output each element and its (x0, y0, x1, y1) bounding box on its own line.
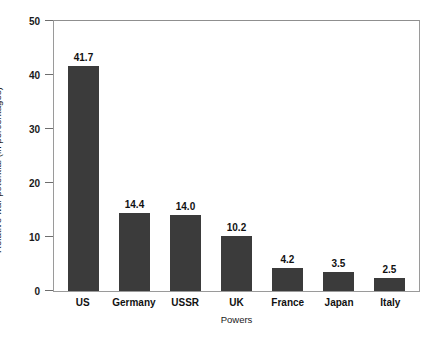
y-axis-tick-label: 20 (29, 177, 40, 188)
bar-value-label: 14.0 (176, 201, 195, 212)
x-axis-tick-label: US (57, 293, 108, 311)
bar-value-label: 3.5 (332, 258, 346, 269)
bar-slot: 10.2 (211, 21, 262, 291)
bar-value-label: 2.5 (383, 264, 397, 275)
x-axis-tick-label: Germany (108, 293, 159, 311)
x-axis-ticks: USGermanyUSSRUKFranceJapanItaly (53, 293, 420, 311)
bar[interactable]: 41.7 (68, 66, 100, 291)
y-axis-tick-label: 10 (29, 231, 40, 242)
y-axis-tick: 40 (45, 74, 53, 75)
bar[interactable]: 2.5 (374, 278, 406, 292)
bar-slot: 2.5 (364, 21, 415, 291)
plot-area: 01020304050 41.714.414.010.24.23.52.5 (53, 20, 420, 292)
bar[interactable]: 3.5 (323, 272, 355, 291)
x-axis-title: Powers (53, 314, 420, 325)
y-axis-tick-label: 50 (29, 15, 40, 26)
y-axis-tick-label: 40 (29, 69, 40, 80)
y-axis-tick-label: 0 (34, 285, 40, 296)
y-axis-tick: 20 (45, 182, 53, 183)
y-axis-tick: 10 (45, 236, 53, 237)
y-axis-tick: 50 (45, 20, 53, 21)
bar-slot: 14.0 (160, 21, 211, 291)
bar[interactable]: 4.2 (272, 268, 304, 291)
bar[interactable]: 14.0 (170, 215, 202, 291)
x-axis-tick-label: Japan (313, 293, 364, 311)
y-axis-tick: 0 (45, 290, 53, 291)
bar[interactable]: 14.4 (119, 213, 151, 291)
bar-chart-figure: Relative war potential (in percentages) … (0, 0, 435, 340)
y-axis-tick: 30 (45, 128, 53, 129)
y-axis-tick-label: 30 (29, 123, 40, 134)
bar-slot: 14.4 (109, 21, 160, 291)
y-axis-title-text: Relative war potential (in percentages) (0, 87, 25, 253)
x-axis-tick-label: UK (211, 293, 262, 311)
bar-value-label: 14.4 (125, 199, 144, 210)
bar[interactable]: 10.2 (221, 236, 253, 291)
bar-value-label: 4.2 (281, 254, 295, 265)
x-axis-tick-label: USSR (160, 293, 211, 311)
bar-slot: 4.2 (262, 21, 313, 291)
x-axis-tick-label: France (262, 293, 313, 311)
bar-value-label: 41.7 (74, 52, 93, 63)
y-axis-title: Relative war potential (in percentages) (0, 0, 16, 340)
bar-series: 41.714.414.010.24.23.52.5 (54, 21, 419, 291)
bar-slot: 3.5 (313, 21, 364, 291)
bar-slot: 41.7 (58, 21, 109, 291)
bar-value-label: 10.2 (227, 222, 246, 233)
x-axis-tick-label: Italy (365, 293, 416, 311)
